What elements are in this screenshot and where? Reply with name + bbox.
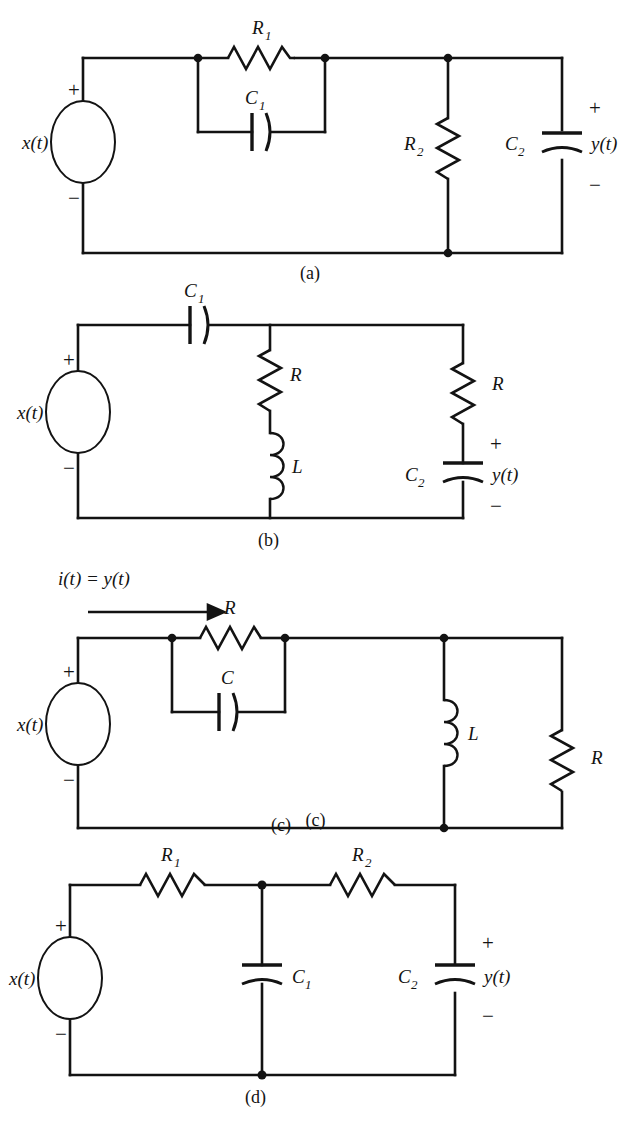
node-a-1 xyxy=(194,54,203,63)
output-plus-a: + xyxy=(589,96,601,120)
output-plus-b: + xyxy=(490,432,502,456)
capacitor-c2-label-d: C xyxy=(398,966,411,987)
resistor-r2-a xyxy=(437,118,459,179)
capacitor-c-label-c: C xyxy=(221,667,234,688)
resistor-r-right-label-b: R xyxy=(491,373,504,394)
circuit-c-svg: i(t) = y(t) x(t) + − R xyxy=(0,550,631,840)
source-label-b: x(t) xyxy=(16,402,43,424)
resistor-r2-sub-d: 2 xyxy=(365,855,372,870)
voltage-source-a xyxy=(51,101,115,183)
circuit-c: i(t) = y(t) x(t) + − R xyxy=(0,550,631,840)
capacitor-c1-label-b: C xyxy=(184,280,197,301)
voltage-source-d xyxy=(38,937,102,1019)
circuit-b: x(t) + − C 1 R L R C 2 xyxy=(0,285,631,557)
capacitor-c1-label-d: C xyxy=(292,966,305,987)
resistor-r1-label-d: R xyxy=(160,844,173,865)
node-a-2 xyxy=(321,54,330,63)
capacitor-c1-sub-d: 1 xyxy=(305,977,312,992)
resistor-r-right-c xyxy=(551,730,573,791)
resistor-r1-d xyxy=(140,874,205,896)
capacitor-c-curve-c xyxy=(233,693,237,731)
resistor-r2-label-a: R xyxy=(403,133,416,154)
capacitor-c2-curve-d xyxy=(435,980,475,985)
resistor-r2-sub-a: 2 xyxy=(417,144,424,159)
capacitor-c1-curve-b xyxy=(204,306,208,344)
circuit-a-svg: x(t) + − R 1 C 1 xyxy=(0,0,631,290)
node-c-1 xyxy=(168,634,177,643)
voltage-source-c xyxy=(46,683,110,765)
resistor-r2-label-d: R xyxy=(351,844,364,865)
caption-a: (a) xyxy=(300,263,320,284)
capacitor-c2-label-a: C xyxy=(505,133,518,154)
capacitor-c1-label-a: C xyxy=(245,87,258,108)
circuit-b-svg: x(t) + − C 1 R L R C 2 xyxy=(0,285,631,557)
inductor-l-b xyxy=(270,433,284,499)
output-minus-d: − xyxy=(482,1004,494,1028)
node-c-2 xyxy=(281,634,290,643)
resistor-r-right-b xyxy=(452,363,474,424)
output-label-d: y(t) xyxy=(482,966,510,988)
capacitor-c1-curve-a xyxy=(266,113,270,151)
source-label-d: x(t) xyxy=(8,968,35,990)
source-plus-d: + xyxy=(55,914,67,938)
circuit-d-svg: x(t) + − R 1 R 2 C 1 C 2 y(t) xyxy=(0,845,631,1134)
capacitor-c2-sub-b: 2 xyxy=(418,475,425,490)
output-minus-b: − xyxy=(490,494,502,518)
resistor-r-right-label-c: R xyxy=(590,747,603,768)
resistor-r1-sub-a: 1 xyxy=(265,28,272,43)
inductor-l-label-c: L xyxy=(467,723,479,744)
capacitor-c2-curve-a xyxy=(542,148,582,153)
resistor-r-middle-b xyxy=(259,350,281,411)
source-minus-d: − xyxy=(55,1022,67,1046)
circuit-figure: x(t) + − R 1 C 1 xyxy=(0,0,631,1134)
source-plus-b: + xyxy=(63,348,75,372)
capacitor-c2-label-b: C xyxy=(405,464,418,485)
output-plus-d: + xyxy=(482,931,494,955)
circuit-a: x(t) + − R 1 C 1 xyxy=(0,0,631,290)
source-minus-c: − xyxy=(63,768,75,792)
resistor-r2-d xyxy=(330,874,395,896)
capacitor-c2-sub-d: 2 xyxy=(411,977,418,992)
capacitor-c2-sub-a: 2 xyxy=(518,144,525,159)
resistor-r1-sub-d: 1 xyxy=(174,855,181,870)
resistor-r-top-label-c: R xyxy=(223,597,236,618)
output-minus-a: − xyxy=(589,173,601,197)
current-arrow-head-c xyxy=(208,605,224,619)
resistor-r1-label-a: R xyxy=(251,17,264,38)
source-label-c: x(t) xyxy=(16,714,43,736)
output-label-b: y(t) xyxy=(490,464,518,486)
caption-c-wrap: (c) xyxy=(0,810,631,831)
inductor-l-label-b: L xyxy=(291,456,303,477)
caption-b: (b) xyxy=(258,530,279,551)
capacitor-c1-sub-a: 1 xyxy=(259,98,266,113)
source-plus-c: + xyxy=(63,660,75,684)
caption-d: (d) xyxy=(245,1087,266,1108)
voltage-source-b xyxy=(46,371,110,453)
output-label-a: y(t) xyxy=(589,133,617,155)
resistor-r-middle-label-b: R xyxy=(289,364,302,385)
circuit-d: x(t) + − R 1 R 2 C 1 C 2 y(t) xyxy=(0,845,631,1134)
capacitor-c1-sub-b: 1 xyxy=(198,291,205,306)
inductor-l-c xyxy=(444,700,458,766)
current-label-c: i(t) = y(t) xyxy=(58,568,130,590)
caption-c-text: (c) xyxy=(306,810,326,830)
resistor-r1-a xyxy=(228,47,295,69)
source-plus-a: + xyxy=(68,78,80,102)
source-minus-a: − xyxy=(68,186,80,210)
source-minus-b: − xyxy=(63,456,75,480)
source-label-a: x(t) xyxy=(21,132,48,154)
resistor-r-top-c xyxy=(200,627,261,649)
